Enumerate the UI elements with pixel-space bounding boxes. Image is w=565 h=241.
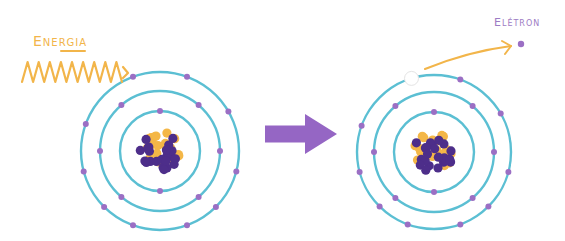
ejection-arrow-icon	[425, 46, 511, 69]
electron	[213, 204, 219, 210]
electron	[184, 74, 190, 80]
nucleus	[136, 129, 184, 175]
electron	[118, 194, 124, 200]
electron	[157, 108, 163, 114]
electron	[371, 149, 377, 155]
electron	[405, 221, 411, 227]
electron	[498, 111, 504, 117]
proton	[446, 146, 455, 155]
atom-after-ionization	[357, 71, 512, 229]
proton	[162, 145, 171, 154]
electron	[485, 203, 491, 209]
electron	[233, 168, 239, 174]
electron	[130, 74, 136, 80]
electron	[377, 203, 383, 209]
neutron	[151, 131, 160, 140]
electron-label: Elétron	[494, 16, 540, 29]
electron	[505, 169, 511, 175]
electron	[81, 168, 87, 174]
electron	[83, 121, 89, 127]
proton	[161, 157, 170, 166]
electron	[457, 221, 463, 227]
nucleus	[411, 131, 456, 175]
energy-arrowhead-icon	[123, 67, 128, 78]
electron	[157, 188, 163, 194]
atom-before-ionization	[81, 72, 240, 230]
proton	[434, 153, 443, 162]
electron	[196, 194, 202, 200]
electron	[392, 195, 398, 201]
electron	[359, 123, 365, 129]
proton	[412, 138, 421, 147]
energy-wave-icon	[22, 62, 122, 82]
electron	[196, 102, 202, 108]
electron	[118, 102, 124, 108]
proton	[171, 154, 180, 163]
electron	[431, 109, 437, 115]
energy-label: Energia	[33, 33, 87, 49]
proton	[168, 134, 177, 143]
proton	[445, 155, 454, 164]
energy-label-underline	[60, 50, 86, 52]
ejected-electron	[518, 41, 524, 47]
electron	[457, 77, 463, 83]
electron	[470, 103, 476, 109]
electron	[217, 148, 223, 154]
electron	[491, 149, 497, 155]
electron	[130, 222, 136, 228]
proton	[142, 135, 151, 144]
proton	[433, 163, 442, 172]
proton	[159, 165, 168, 174]
process-arrow-icon	[265, 114, 337, 154]
electron	[357, 169, 363, 175]
proton	[140, 157, 149, 166]
proton	[434, 136, 443, 145]
electron	[184, 222, 190, 228]
electron	[392, 103, 398, 109]
electron	[470, 195, 476, 201]
proton	[143, 144, 152, 153]
electron-vacancy	[405, 71, 419, 85]
proton	[421, 166, 430, 175]
electron	[97, 148, 103, 154]
proton	[423, 149, 432, 158]
electron	[101, 204, 107, 210]
electron	[431, 189, 437, 195]
electron	[225, 109, 231, 115]
